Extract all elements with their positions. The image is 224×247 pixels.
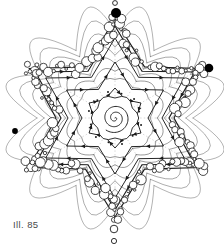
figure-page: Ill. 85 bbox=[0, 0, 224, 247]
perimeter-circle bbox=[50, 101, 54, 105]
direction-arrow bbox=[146, 144, 150, 148]
rosette-dot bbox=[108, 141, 110, 143]
perimeter-circle bbox=[110, 31, 118, 39]
perimeter-circle bbox=[170, 159, 175, 164]
perimeter-circle bbox=[121, 197, 127, 203]
perimeter-circle bbox=[179, 68, 185, 74]
perimeter-circle bbox=[41, 97, 44, 100]
direction-arrow bbox=[121, 157, 127, 163]
rosette-dot bbox=[95, 136, 97, 138]
direction-arrow bbox=[120, 72, 126, 78]
sweep-curve bbox=[140, 118, 174, 162]
perimeter-circle bbox=[24, 72, 27, 75]
perimeter-circle bbox=[109, 203, 116, 210]
perimeter-circle bbox=[122, 30, 130, 38]
star-mandala-figure bbox=[0, 0, 224, 247]
direction-arrow bbox=[54, 95, 60, 101]
perimeter-circle bbox=[170, 68, 176, 74]
sweep-curve bbox=[140, 74, 174, 118]
rosette-dot bbox=[120, 93, 122, 95]
perimeter-circle bbox=[35, 157, 45, 167]
perimeter-circle bbox=[117, 208, 124, 215]
perimeter-circle bbox=[185, 90, 191, 96]
direction-arrow bbox=[153, 101, 159, 107]
perimeter-circle bbox=[69, 63, 74, 68]
perimeter-circle bbox=[140, 60, 144, 64]
right-filled-dot bbox=[205, 64, 214, 73]
rosette-dot bbox=[138, 111, 140, 113]
perimeter-circle bbox=[167, 168, 170, 171]
perimeter-circle bbox=[175, 111, 181, 117]
perimeter-circle bbox=[97, 183, 100, 186]
perimeter-circle bbox=[189, 78, 196, 85]
direction-arrow bbox=[104, 73, 110, 79]
left-filled-dot bbox=[12, 128, 18, 134]
perimeter-circle bbox=[131, 58, 139, 66]
perimeter-circle bbox=[91, 186, 99, 194]
perimeter-circle bbox=[112, 23, 115, 26]
sweep-curve bbox=[20, 118, 80, 188]
perimeter-circle bbox=[24, 168, 28, 172]
perimeter-circle bbox=[114, 216, 122, 224]
perimeter-circle bbox=[136, 180, 139, 183]
perimeter-circle bbox=[47, 98, 51, 102]
perimeter-circle bbox=[89, 172, 92, 175]
direction-arrow bbox=[159, 76, 163, 80]
perimeter-circle bbox=[68, 160, 75, 167]
perimeter-circle bbox=[147, 163, 154, 170]
direction-arrow bbox=[170, 95, 176, 101]
bottom-open-circle-inner bbox=[110, 225, 118, 233]
perimeter-circle bbox=[193, 158, 196, 161]
perimeter-circle bbox=[43, 151, 46, 154]
sweep-curve bbox=[56, 118, 90, 162]
direction-arrow bbox=[145, 88, 149, 92]
direction-arrow bbox=[153, 129, 159, 135]
rosette-dot bbox=[107, 91, 109, 93]
rosette-dot bbox=[96, 99, 98, 101]
perimeter-circle bbox=[84, 176, 90, 182]
rosette-dot bbox=[132, 135, 134, 137]
perimeter-circle bbox=[28, 70, 32, 74]
rosette-dot bbox=[140, 124, 142, 126]
perimeter-circle bbox=[65, 68, 68, 71]
direction-arrow bbox=[66, 156, 70, 160]
perimeter-circle bbox=[35, 63, 39, 67]
perimeter-circle bbox=[175, 137, 184, 146]
rosette-dot bbox=[90, 123, 92, 125]
perimeter-circle bbox=[135, 49, 138, 52]
perimeter-circle bbox=[190, 66, 193, 69]
direction-arrow bbox=[104, 158, 110, 164]
perimeter-circle bbox=[44, 67, 53, 76]
perimeter-circle bbox=[129, 181, 137, 189]
figure-caption: Ill. 85 bbox=[13, 219, 39, 230]
perimeter-circle bbox=[52, 69, 55, 72]
direction-arrow bbox=[166, 162, 170, 166]
perimeter-circle bbox=[127, 190, 130, 193]
perimeter-circle bbox=[101, 183, 110, 192]
figure-root bbox=[6, 1, 224, 244]
rosette-dot bbox=[121, 143, 123, 145]
perimeter-circle bbox=[134, 189, 136, 191]
direction-arrow bbox=[72, 102, 78, 108]
sweep-curve bbox=[20, 48, 80, 118]
direction-arrow bbox=[81, 144, 85, 148]
perimeter-circle bbox=[77, 168, 83, 174]
direction-arrow bbox=[80, 88, 84, 92]
perimeter-circle bbox=[125, 49, 128, 52]
rosette-dot bbox=[133, 98, 135, 100]
direction-arrow bbox=[71, 130, 77, 136]
perimeter-circle bbox=[184, 69, 187, 72]
perimeter-circle bbox=[24, 61, 30, 67]
perimeter-circle bbox=[21, 157, 30, 166]
perimeter-circle bbox=[152, 169, 156, 173]
perimeter-circle bbox=[176, 66, 179, 69]
perimeter-circle bbox=[182, 78, 190, 86]
perimeter-circle bbox=[40, 85, 47, 92]
perimeter-circle bbox=[30, 160, 35, 165]
perimeter-circle bbox=[35, 153, 40, 158]
rosette-dot bbox=[88, 110, 90, 112]
perimeter-circle bbox=[161, 66, 166, 71]
perimeter-circle bbox=[123, 41, 129, 47]
top-open-circle bbox=[113, 1, 118, 6]
direction-arrow bbox=[60, 70, 64, 74]
